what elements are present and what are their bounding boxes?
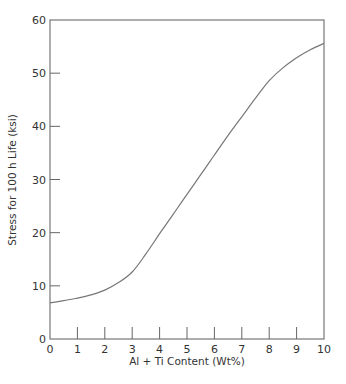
- x-axis: 012345678910: [47, 327, 332, 356]
- x-tick-label: 9: [293, 343, 300, 356]
- chart: 0102030405060 012345678910 Al + Ti Conte…: [0, 0, 346, 384]
- y-tick-label: 20: [32, 227, 46, 240]
- x-tick-label: 10: [317, 343, 331, 356]
- y-tick-label: 10: [32, 280, 46, 293]
- x-tick-label: 1: [74, 343, 81, 356]
- x-tick-label: 2: [101, 343, 108, 356]
- y-axis-label: Stress for 100 h Life (ksi): [6, 114, 18, 246]
- data-curve: [50, 43, 324, 302]
- y-tick-label: 60: [32, 14, 46, 27]
- y-axis: 0102030405060: [32, 14, 60, 346]
- x-tick-label: 8: [266, 343, 273, 356]
- y-tick-label: 50: [32, 67, 46, 80]
- y-tick-label: 40: [32, 120, 46, 133]
- x-axis-label: Al + Ti Content (Wt%): [129, 355, 245, 367]
- x-tick-label: 0: [47, 343, 54, 356]
- y-tick-label: 0: [39, 333, 46, 346]
- y-tick-label: 30: [32, 174, 46, 187]
